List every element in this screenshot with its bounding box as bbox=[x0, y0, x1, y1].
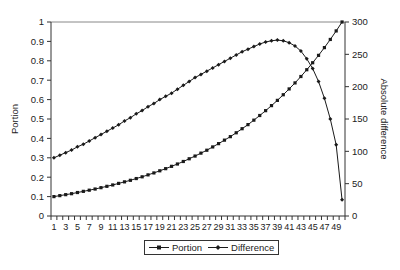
data-point bbox=[340, 198, 344, 202]
data-point bbox=[240, 50, 244, 54]
y-tick-label: 0.3 bbox=[31, 152, 44, 163]
chart-legend: Portion Difference bbox=[144, 240, 279, 255]
y-tick-label: 0.4 bbox=[31, 133, 44, 144]
data-point bbox=[311, 61, 314, 64]
x-tick-label: 41 bbox=[284, 222, 294, 232]
data-point bbox=[58, 194, 61, 197]
data-point bbox=[276, 99, 279, 102]
series-line bbox=[54, 22, 342, 197]
axes: 00.10.20.30.40.50.60.70.80.9105010015020… bbox=[31, 16, 368, 232]
data-point bbox=[299, 75, 302, 78]
y-tick-label: 1 bbox=[39, 16, 44, 27]
data-point bbox=[322, 96, 326, 100]
data-point bbox=[335, 29, 338, 32]
data-point bbox=[76, 191, 79, 194]
series-layer bbox=[52, 20, 344, 201]
x-tick-label: 19 bbox=[155, 222, 165, 232]
data-point bbox=[64, 193, 67, 196]
line-square-marker-icon bbox=[149, 244, 169, 251]
y-tick-label: 0.7 bbox=[31, 75, 44, 86]
data-point bbox=[164, 167, 167, 170]
legend-item-portion: Portion bbox=[149, 242, 202, 253]
data-point bbox=[193, 154, 196, 157]
data-point bbox=[123, 180, 126, 183]
x-tick-label: 39 bbox=[272, 222, 282, 232]
x-tick-label: 49 bbox=[331, 222, 341, 232]
data-point bbox=[75, 145, 79, 149]
y2-tick-label: 250 bbox=[352, 49, 368, 60]
data-point bbox=[111, 183, 114, 186]
line-diamond-marker-icon bbox=[208, 244, 228, 251]
data-point bbox=[205, 149, 208, 152]
series-portion bbox=[52, 20, 343, 198]
data-point bbox=[52, 156, 56, 160]
data-point bbox=[188, 157, 191, 160]
data-point bbox=[217, 142, 220, 145]
series-difference bbox=[52, 38, 344, 202]
legend-label-difference: Difference bbox=[231, 242, 274, 253]
y-tick-label: 0.8 bbox=[31, 55, 44, 66]
data-point bbox=[93, 136, 97, 140]
data-point bbox=[222, 59, 226, 63]
data-point bbox=[305, 68, 308, 71]
x-tick-label: 11 bbox=[108, 222, 117, 232]
data-point bbox=[170, 165, 173, 168]
data-point bbox=[152, 171, 155, 174]
x-tick-label: 5 bbox=[75, 222, 80, 232]
y-tick-label: 0.5 bbox=[31, 113, 44, 124]
x-tick-label: 1 bbox=[51, 222, 56, 232]
y-axis-title: Portion bbox=[9, 104, 20, 134]
x-tick-label: 35 bbox=[249, 222, 259, 232]
x-tick-label: 17 bbox=[143, 222, 153, 232]
x-tick-label: 45 bbox=[308, 222, 318, 232]
data-point bbox=[117, 182, 120, 185]
x-tick-label: 15 bbox=[131, 222, 141, 232]
y-tick-label: 0.2 bbox=[31, 172, 44, 183]
data-point bbox=[340, 20, 343, 23]
data-point bbox=[252, 119, 255, 122]
data-point bbox=[88, 189, 91, 192]
data-point bbox=[199, 72, 203, 76]
x-tick-label: 31 bbox=[225, 222, 235, 232]
data-point bbox=[182, 160, 185, 163]
data-point bbox=[228, 56, 232, 60]
x-tick-label: 9 bbox=[98, 222, 103, 232]
data-point bbox=[293, 81, 296, 84]
data-point bbox=[82, 190, 85, 193]
data-point bbox=[217, 63, 221, 67]
data-point bbox=[282, 93, 285, 96]
y2-tick-label: 200 bbox=[352, 81, 368, 92]
data-point bbox=[317, 54, 320, 57]
data-point bbox=[264, 40, 268, 44]
data-point bbox=[199, 152, 202, 155]
data-point bbox=[129, 179, 132, 182]
data-point bbox=[241, 127, 244, 130]
x-tick-label: 29 bbox=[214, 222, 224, 232]
data-point bbox=[281, 39, 285, 43]
data-point bbox=[146, 173, 149, 176]
x-tick-label: 43 bbox=[296, 222, 306, 232]
data-point bbox=[87, 139, 91, 143]
data-point bbox=[58, 153, 62, 157]
data-point bbox=[235, 131, 238, 134]
data-point bbox=[264, 109, 267, 112]
x-tick-label: 33 bbox=[237, 222, 247, 232]
y2-tick-label: 50 bbox=[352, 178, 363, 189]
data-point bbox=[229, 135, 232, 138]
data-point bbox=[105, 185, 108, 188]
data-point bbox=[246, 123, 249, 126]
x-tick-label: 21 bbox=[167, 222, 177, 232]
data-point bbox=[70, 148, 74, 152]
x-tick-label: 25 bbox=[190, 222, 200, 232]
data-point bbox=[287, 41, 291, 45]
x-tick-label: 23 bbox=[178, 222, 188, 232]
y2-tick-label: 100 bbox=[352, 146, 368, 157]
series-line bbox=[54, 40, 342, 200]
x-tick-label: 47 bbox=[319, 222, 329, 232]
y2-axis-title: Absolute difference bbox=[379, 78, 390, 159]
data-point bbox=[252, 45, 256, 49]
data-point bbox=[205, 69, 209, 73]
data-point bbox=[105, 129, 109, 133]
data-point bbox=[111, 126, 115, 130]
y2-tick-label: 300 bbox=[352, 16, 368, 27]
